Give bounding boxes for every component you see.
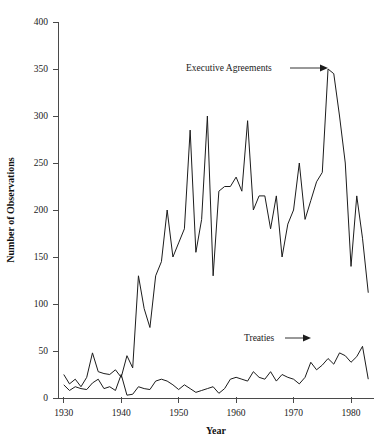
y-axis-tick-label: 400 — [34, 17, 49, 27]
x-axis-title: Year — [206, 425, 227, 436]
x-axis-tick-label: 1960 — [227, 408, 246, 418]
x-axis-tick-label: 1930 — [54, 408, 73, 418]
y-axis-title: Number of Observations — [5, 157, 16, 262]
annotation-treaties: Treaties — [244, 333, 311, 343]
arrow-right-icon — [303, 335, 311, 342]
y-axis-tick-label: 300 — [34, 111, 49, 121]
annotation-label-treaties: Treaties — [244, 333, 275, 343]
annotation-executive-agreements: Executive Agreements — [186, 63, 328, 73]
y-axis-tick-label: 100 — [34, 299, 49, 309]
figure-container: 050100150200250300350400 193019401950196… — [0, 0, 382, 446]
x-axis-tick-label: 1950 — [169, 408, 188, 418]
data-series-group — [64, 69, 369, 395]
line-chart: 050100150200250300350400 193019401950196… — [0, 0, 382, 446]
y-axis-tick-label: 350 — [34, 64, 49, 74]
line-executive-agreements — [64, 69, 369, 387]
y-axis-tick-label: 50 — [39, 346, 49, 356]
y-axis-tick-label: 250 — [34, 158, 49, 168]
y-axis: 050100150200250300350400 — [34, 17, 59, 403]
x-axis-tick-labels: 193019401950196019701980 — [54, 408, 361, 418]
y-axis-tick-label: 0 — [43, 393, 48, 403]
y-axis-tick-label: 150 — [34, 252, 49, 262]
y-axis-tick-label: 200 — [34, 205, 49, 215]
x-axis: 193019401950196019701980 — [54, 397, 374, 418]
x-axis-tick-label: 1970 — [284, 408, 303, 418]
arrow-right-icon — [320, 65, 328, 72]
x-axis-tick-label: 1980 — [342, 408, 361, 418]
y-axis-tick-labels: 050100150200250300350400 — [34, 17, 49, 403]
annotation-label-executive-agreements: Executive Agreements — [186, 63, 272, 73]
x-axis-tick-label: 1940 — [112, 408, 131, 418]
line-treaties — [64, 346, 369, 395]
